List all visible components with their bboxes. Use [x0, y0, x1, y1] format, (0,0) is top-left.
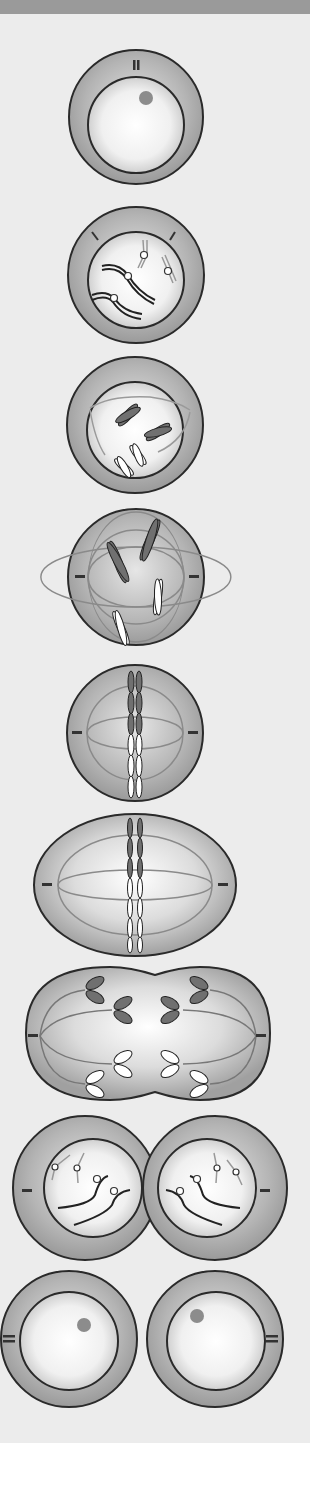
mitosis-diagram: [0, 0, 310, 1496]
nucleolus: [77, 1318, 91, 1332]
daughter-cell-left: [1, 1271, 137, 1407]
nuclear-envelope-left: [44, 1139, 142, 1237]
nucleolus: [190, 1309, 204, 1323]
stage-cytokinesis: [1, 1271, 283, 1407]
stage-early-anaphase: [34, 814, 236, 956]
stage-metaphase: [67, 665, 203, 801]
cell-membrane: [26, 967, 270, 1100]
nuclear-envelope: [88, 77, 184, 173]
stage-prometaphase: [41, 509, 231, 646]
daughter-cell-right: [147, 1271, 283, 1407]
nucleolus: [139, 91, 153, 105]
nuclear-envelope-right: [158, 1139, 256, 1237]
stage-prophase: [67, 357, 203, 493]
stage-anaphase: [26, 967, 270, 1100]
stage-early-prophase: [68, 207, 204, 343]
stage-telophase: [13, 1116, 287, 1260]
stage-interphase: [69, 50, 203, 184]
